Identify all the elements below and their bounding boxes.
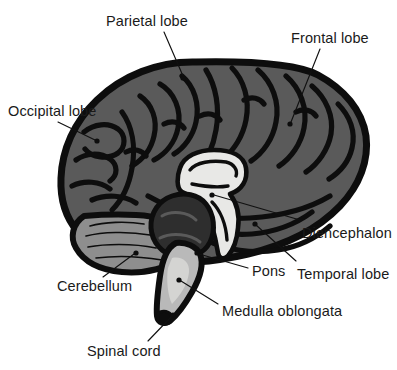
label-occipital-lobe: Occipital lobe xyxy=(8,104,96,119)
label-medulla-oblongata: Medulla oblongata xyxy=(222,304,342,319)
label-temporal-lobe: Temporal lobe xyxy=(297,267,389,282)
dot-medulla-oblongata xyxy=(176,277,181,282)
label-diencephalon: Diencephalon xyxy=(302,226,392,241)
dot-occipital-lobe xyxy=(94,138,99,143)
dot-pons xyxy=(194,250,199,255)
label-spinal-cord: Spinal cord xyxy=(87,344,161,359)
dot-cerebellum xyxy=(133,250,138,255)
label-pons: Pons xyxy=(252,264,285,279)
label-cerebellum: Cerebellum xyxy=(57,279,132,294)
brain-anatomy-diagram: Parietal lobe Frontal lobe Occipital lob… xyxy=(0,0,397,370)
dot-diencephalon xyxy=(209,192,214,197)
brain-body xyxy=(58,32,367,341)
dot-spinal-cord xyxy=(170,312,175,317)
label-parietal-lobe: Parietal lobe xyxy=(106,14,188,29)
dot-temporal-lobe xyxy=(252,221,257,226)
dot-parietal-lobe xyxy=(180,75,185,80)
dot-frontal-lobe xyxy=(287,121,292,126)
label-frontal-lobe: Frontal lobe xyxy=(291,31,369,46)
